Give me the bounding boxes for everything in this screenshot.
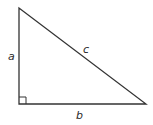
hypotenuse-c-label: c	[83, 43, 89, 56]
triangle-outline	[19, 8, 146, 104]
side-b-label: b	[76, 109, 83, 122]
side-a-label: a	[8, 50, 15, 63]
right-angle-marker	[19, 97, 26, 104]
right-triangle-diagram: a c b	[0, 0, 153, 125]
